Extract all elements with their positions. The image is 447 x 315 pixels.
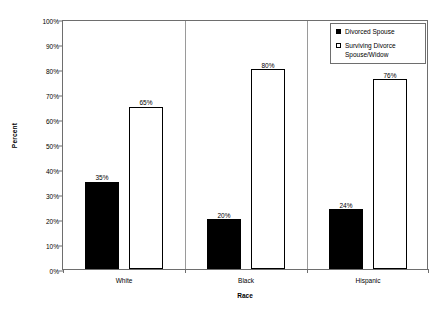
legend-item-label: Surviving Divorce Spouse/Widow — [345, 42, 421, 60]
legend-item-divorced-spouse: Divorced Spouse — [336, 28, 421, 37]
x-axis-category-label: Black — [238, 277, 254, 284]
y-axis-tick-mark — [59, 146, 63, 147]
legend-item-label: Divorced Spouse — [345, 28, 395, 37]
outlined-white-square-icon — [336, 43, 341, 48]
bar: 65% — [129, 107, 163, 270]
bar: 80% — [251, 69, 285, 269]
bar: 24% — [329, 209, 363, 269]
bar-chart: Percent 0%10%20%30%40%50%60%70%80%90%100… — [0, 0, 447, 315]
y-axis-tick-mark — [59, 246, 63, 247]
y-axis-tick-mark — [59, 121, 63, 122]
y-axis-tick-mark — [59, 221, 63, 222]
bar-value-label: 24% — [339, 203, 352, 210]
bar-value-label: 80% — [261, 63, 274, 70]
category-separator — [307, 21, 308, 269]
x-axis-title: Race — [62, 292, 428, 299]
y-axis-tick-mark — [59, 196, 63, 197]
filled-black-square-icon — [336, 29, 341, 34]
bar-value-label: 65% — [139, 100, 152, 107]
bar: 20% — [207, 219, 241, 269]
bar: 76% — [373, 79, 407, 269]
y-axis-tick-mark — [59, 21, 63, 22]
bar-value-label: 20% — [217, 213, 230, 220]
y-axis-tick-mark — [59, 171, 63, 172]
bar: 35% — [85, 182, 119, 270]
x-axis-tick-mark — [307, 269, 308, 273]
x-axis-category-label: Hispanic — [356, 277, 381, 284]
y-axis-tick-mark — [59, 46, 63, 47]
bar-value-label: 35% — [95, 175, 108, 182]
y-axis-tick-mark — [59, 96, 63, 97]
x-axis-tick-mark — [428, 269, 429, 273]
chart-legend: Divorced Spouse Surviving Divorce Spouse… — [330, 23, 426, 64]
y-axis-title: Percent — [11, 106, 18, 166]
legend-item-surviving-divorce-spouse-widow: Surviving Divorce Spouse/Widow — [336, 42, 421, 60]
x-axis-category-label: White — [116, 277, 133, 284]
category-separator — [185, 21, 186, 269]
x-axis-tick-mark — [63, 269, 64, 273]
y-axis-tick-mark — [59, 71, 63, 72]
bar-value-label: 76% — [383, 73, 396, 80]
x-axis-tick-mark — [185, 269, 186, 273]
